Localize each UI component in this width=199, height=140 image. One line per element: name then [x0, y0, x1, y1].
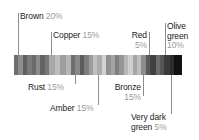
label-copper: Copper 15% [53, 31, 99, 41]
label-brown: Brown 20% [20, 12, 63, 22]
colour-proportion-chart: Brown 20% Copper 15% Red 5% Olive green … [0, 0, 199, 140]
label-olive-green-name: Olive [167, 21, 186, 31]
label-bronze: Bronze 15% [104, 83, 141, 102]
leader-line-amber [98, 75, 99, 105]
label-brown-name: Brown [20, 11, 44, 21]
label-very-dark-green: Very dark green 5% [131, 113, 183, 132]
leader-line-brown [18, 13, 19, 55]
label-amber: Amber 15% [50, 104, 94, 114]
label-bronze-name: Bronze [115, 82, 141, 92]
leader-line-olive-green [165, 23, 166, 55]
label-rust-pct: 15% [47, 82, 64, 92]
label-copper-pct: 15% [83, 30, 100, 40]
label-amber-name: Amber [50, 103, 75, 113]
label-very-dark-green-pct: 5% [155, 122, 167, 132]
label-bronze-pct: 15% [124, 92, 141, 102]
label-copper-name: Copper [53, 30, 80, 40]
leader-line-very-dark-green [171, 75, 172, 114]
label-amber-pct: 15% [77, 103, 94, 113]
label-red-pct: 5% [135, 40, 147, 50]
label-olive-green-pct: 10% [167, 40, 184, 50]
label-very-dark-green-name2: green [131, 122, 152, 132]
label-rust: Rust 15% [28, 83, 64, 93]
leader-line-bronze [143, 75, 144, 96]
label-olive-green-name2: green [167, 31, 188, 41]
leader-line-copper [51, 32, 52, 55]
label-very-dark-green-name: Very dark [131, 112, 166, 122]
label-rust-name: Rust [28, 82, 45, 92]
label-red: Red 5% [123, 31, 147, 50]
label-red-name: Red [132, 30, 147, 40]
label-olive-green: Olive green 10% [167, 22, 199, 51]
leader-line-red [149, 32, 150, 55]
leader-line-rust [75, 75, 76, 84]
label-brown-pct: 20% [46, 11, 63, 21]
bar-stripe [174, 55, 182, 75]
colour-proportion-bar [14, 55, 182, 75]
